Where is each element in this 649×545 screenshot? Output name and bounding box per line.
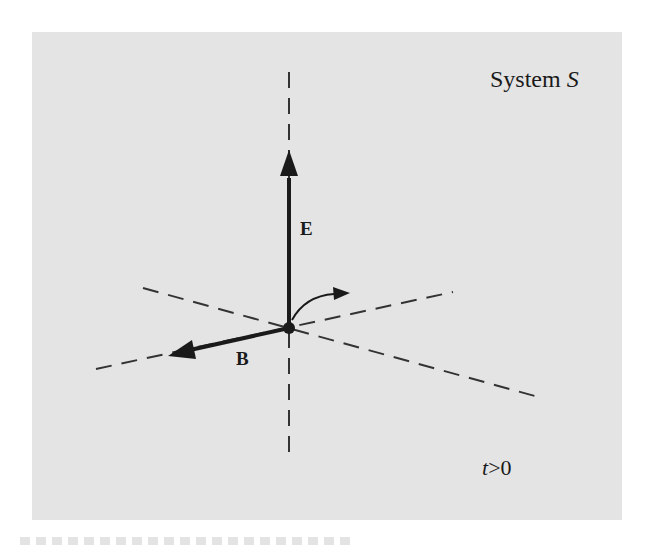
time-condition-label: t>0 [482, 455, 512, 481]
b-vector-label: B [236, 348, 249, 370]
electric-field-arrowhead-icon [280, 150, 298, 176]
origin-charge-dot-icon [283, 322, 295, 334]
cropped-caption [20, 537, 350, 545]
magnetic-field-arrowhead-icon [168, 340, 196, 359]
e-vector-label: E [300, 218, 313, 240]
axis-line-2-dashed [143, 288, 535, 396]
curved-motion-arrow [292, 294, 334, 320]
curved-motion-arrowhead-icon [333, 287, 350, 300]
system-title: System S [490, 66, 579, 93]
magnetic-field-vector [190, 328, 289, 350]
